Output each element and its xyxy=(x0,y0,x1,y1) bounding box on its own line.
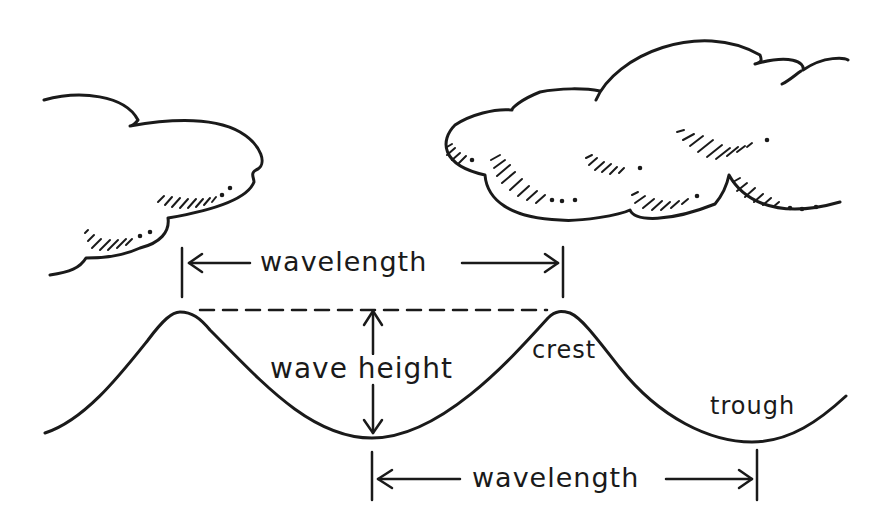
wavelength-top-label: wavelength xyxy=(254,248,433,275)
wave-height-label: wave height xyxy=(266,355,457,383)
diagram-drawing xyxy=(0,0,891,532)
wave-diagram: wavelength wave height crest trough wave… xyxy=(0,0,891,532)
trough-label: trough xyxy=(704,394,801,418)
wavelength-bottom-label: wavelength xyxy=(466,464,645,491)
crest-label: crest xyxy=(526,338,602,362)
right-cloud-icon xyxy=(446,41,848,221)
left-cloud-icon xyxy=(44,95,262,275)
